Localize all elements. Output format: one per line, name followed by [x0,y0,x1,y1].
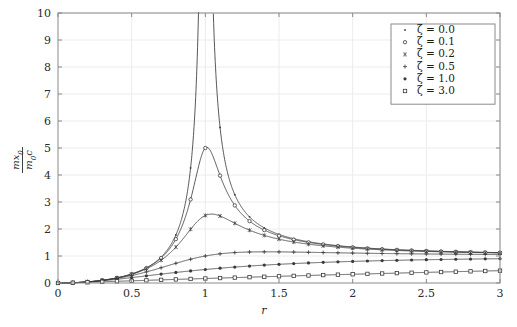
marker-square [292,274,295,277]
marker-square [410,271,413,274]
marker-square [425,271,428,274]
x-tick-label: 1.5 [270,287,288,300]
marker-dot [404,29,406,31]
marker-circle [248,219,251,222]
marker-filled-dot [233,265,236,268]
legend-label-4: ζ = 1.0 [417,72,455,84]
marker-circle [218,174,221,177]
marker-filled-dot [454,258,457,261]
frequency-response-chart: 00.511.522.53 012345678910 r mx0 m0c ζ =… [0,0,517,327]
marker-filled-dot [336,260,339,263]
marker-circle [263,228,266,231]
x-tick-label: 2.5 [418,287,436,300]
y-tick-label: 1 [44,250,51,263]
marker-filled-dot [403,77,406,80]
x-tick-label: 3 [497,287,504,300]
marker-filled-dot [189,269,192,272]
marker-filled-dot [204,268,207,271]
marker-square [380,272,383,275]
marker-square [403,89,406,92]
marker-square [248,275,251,278]
legend-label-0: ζ = 0.0 [417,23,455,35]
marker-dot [219,127,221,129]
y-tick-label: 2 [44,223,51,236]
marker-filled-dot [484,257,487,260]
marker-square [336,273,339,276]
y-tick-label: 6 [44,115,51,128]
legend: ζ = 0.0ζ = 0.1ζ = 0.2ζ = 0.5ζ = 1.0ζ = 3… [391,23,495,104]
marker-filled-dot [174,271,177,274]
x-tick-label: 2 [349,287,356,300]
marker-square [263,275,266,278]
marker-filled-dot [263,264,266,267]
marker-filled-dot [395,259,398,262]
x-tick-label: 0 [55,287,62,300]
marker-circle [403,41,406,44]
marker-dot [249,216,251,218]
marker-filled-dot [248,264,251,267]
legend-label-2: ζ = 0.2 [417,47,455,59]
marker-square [159,278,162,281]
marker-filled-dot [439,258,442,261]
marker-square [454,270,457,273]
marker-square [189,277,192,280]
legend-label-1: ζ = 0.1 [417,35,455,47]
marker-square [307,274,310,277]
x-tick-label: 1 [202,287,209,300]
marker-filled-dot [366,259,369,262]
x-tick-label: 0.5 [123,287,141,300]
marker-filled-dot [292,262,295,265]
marker-filled-dot [145,274,148,277]
marker-filled-dot [277,263,280,266]
marker-circle [204,146,207,149]
figure-container: 00.511.522.53 012345678910 r mx0 m0c ζ =… [0,0,517,327]
marker-circle [174,237,177,240]
marker-filled-dot [469,257,472,260]
y-tick-label: 3 [44,196,51,209]
marker-filled-dot [410,258,413,261]
marker-dot [234,194,236,196]
marker-square [145,279,148,282]
y-tick-label: 10 [37,7,51,20]
marker-square [218,276,221,279]
marker-square [366,272,369,275]
marker-filled-dot [351,260,354,263]
legend-label-3: ζ = 0.5 [417,60,455,72]
marker-circle [233,204,236,207]
marker-square [469,270,472,273]
marker-square [233,276,236,279]
marker-filled-dot [307,261,310,264]
y-tick-label: 7 [44,88,51,101]
marker-square [439,270,442,273]
marker-square [277,275,280,278]
marker-dot [190,167,192,169]
marker-square [115,280,118,283]
marker-dot [175,234,177,236]
marker-filled-dot [322,261,325,264]
y-tick-label: 5 [44,142,51,155]
legend-label-5: ζ = 3.0 [417,84,455,96]
y-tick-label: 4 [44,169,51,182]
y-tick-label: 8 [44,61,51,74]
y-tick-label: 9 [44,34,51,47]
marker-filled-dot [381,259,384,262]
marker-filled-dot [425,258,428,261]
marker-square [322,273,325,276]
marker-square [174,278,177,281]
marker-circle [277,234,280,237]
y-tick-label: 0 [44,277,51,290]
marker-filled-dot [160,273,163,276]
marker-filled-dot [218,267,221,270]
marker-square [351,273,354,276]
marker-square [395,271,398,274]
marker-square [484,269,487,272]
marker-circle [189,198,192,201]
x-axis-title: r [261,304,267,317]
